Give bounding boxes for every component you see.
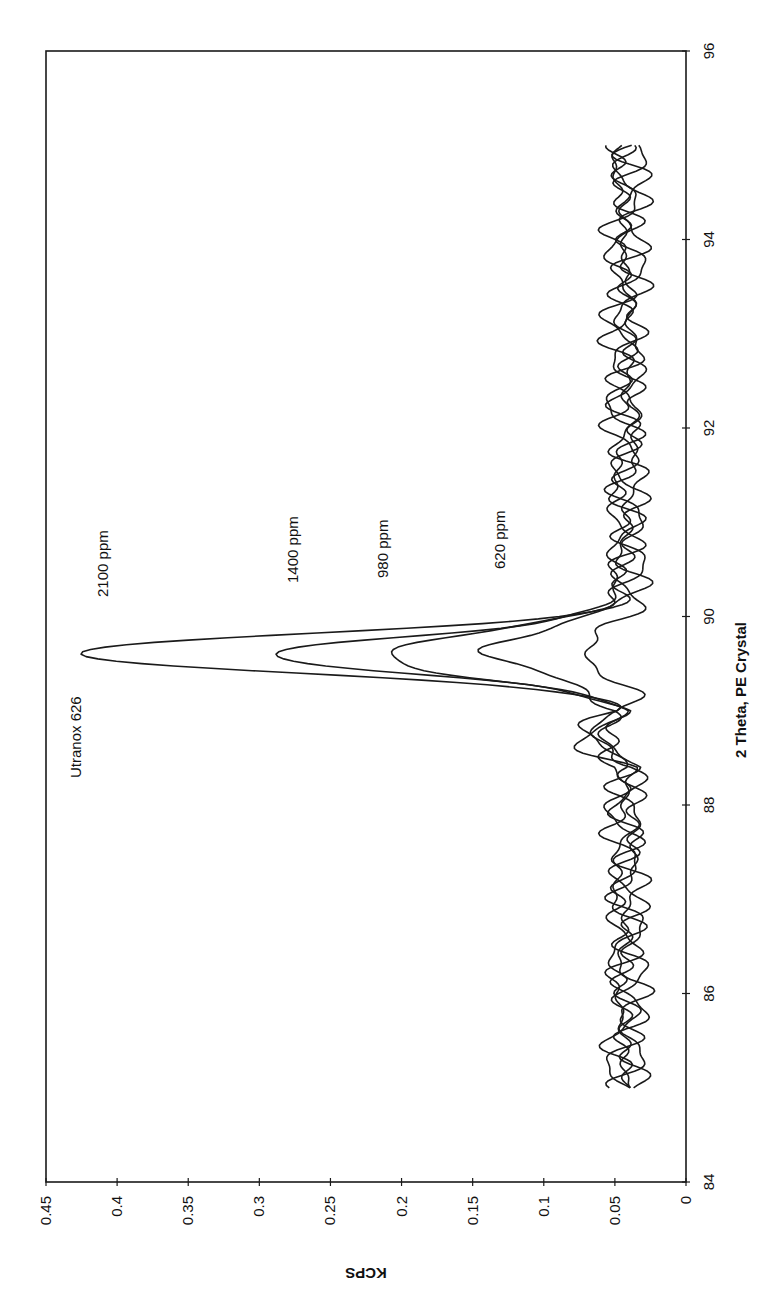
y-tick-label: 0.45	[37, 1196, 54, 1225]
plot-frame	[46, 51, 686, 1182]
annotation-1400-ppm: 1400 ppm	[284, 516, 301, 583]
y-tick-label: 0	[677, 1196, 694, 1204]
series-curve-1400-ppm	[276, 145, 646, 1088]
annotation-980-ppm: 980 ppm	[374, 520, 391, 578]
x-axis-title: 2 Theta, PE Crystal	[732, 622, 749, 758]
x-tick-label: 94	[700, 231, 717, 248]
y-axis-title: KCPS	[345, 1265, 387, 1282]
annotation-620-ppm: 620 ppm	[491, 511, 508, 569]
y-tick-label: 0.1	[535, 1196, 552, 1217]
kcps-axis-ticks: 00.050.10.150.20.250.30.350.40.45	[37, 1178, 694, 1225]
series-curve-980-ppm	[392, 145, 652, 1088]
spectrum-curves	[81, 145, 655, 1088]
y-tick-label: 0.25	[321, 1196, 338, 1225]
x-tick-label: 96	[700, 43, 717, 60]
xrf-scan-chart: 84868890929496 00.050.10.150.20.250.30.3…	[0, 0, 774, 1298]
two-theta-axis-ticks: 84868890929496	[682, 43, 717, 1191]
y-tick-label: 0.4	[108, 1196, 125, 1217]
x-tick-label: 86	[700, 985, 717, 1002]
x-tick-label: 84	[700, 1174, 717, 1191]
annotation-2100-ppm: 2100 ppm	[94, 530, 111, 597]
y-tick-label: 0.3	[250, 1196, 267, 1217]
x-tick-label: 92	[700, 420, 717, 437]
y-tick-label: 0.15	[464, 1196, 481, 1225]
y-tick-label: 0.35	[179, 1196, 196, 1225]
annotation-utranox-626: Utranox 626	[67, 696, 84, 778]
y-tick-label: 0.05	[606, 1196, 623, 1225]
y-tick-label: 0.2	[393, 1196, 410, 1217]
x-tick-label: 88	[700, 797, 717, 814]
x-tick-label: 90	[700, 608, 717, 625]
